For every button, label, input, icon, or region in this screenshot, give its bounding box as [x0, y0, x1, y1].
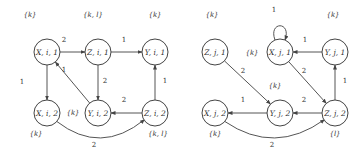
edge-weight-label: 2: [241, 67, 245, 75]
node-Zj2: Z, j, 2: [322, 100, 348, 126]
edge-weight-label: 1: [241, 96, 245, 104]
node-Yi1: Y, i, 1: [142, 39, 168, 65]
node-set-label: {k}: [29, 130, 42, 138]
node-Zi1: Z, i, 1: [85, 39, 111, 65]
node-set-label: {k}: [208, 130, 221, 138]
node-label: Z, i, 2: [143, 109, 166, 118]
node-Zj1: Z, j, 1: [202, 39, 228, 65]
edge-weight-label: 1: [303, 36, 307, 44]
node-label: X, i, 2: [35, 109, 58, 118]
node-Xi2: X, i, 2: [34, 100, 60, 126]
edge-weight-label: 1: [343, 77, 347, 85]
node-set-label: {k}: [245, 49, 258, 57]
edge-weight-label: 2: [62, 36, 66, 44]
node-label: Y, j, 1: [325, 48, 346, 57]
node-label: X, j, 1: [268, 48, 291, 57]
edge-Yi2-Xi1: [55, 62, 89, 103]
node-Xj1: X, j, 1: [267, 39, 293, 65]
edge-Xj1-Zj2: [289, 62, 327, 104]
node-Xi1: X, i, 1: [34, 39, 60, 65]
node-label: X, i, 1: [35, 48, 58, 57]
node-Yj2: Y, j, 2: [267, 100, 293, 126]
node-Zi2: Z, i, 2: [142, 100, 168, 126]
edge-Xj1-Xj1: [274, 26, 287, 40]
node-set-label: {k}: [66, 109, 79, 117]
node-label: X, j, 2: [203, 109, 226, 118]
node-set-label: {k}: [326, 11, 339, 19]
node-set-label: {k, l}: [148, 130, 168, 138]
edge-weight-label: 2: [122, 96, 126, 104]
node-label: Y, j, 2: [270, 109, 291, 118]
edge-weight-label: 1: [20, 78, 24, 86]
node-label: Y, i, 2: [88, 109, 109, 118]
node-Yi2: Y, i, 2: [85, 100, 111, 126]
node-set-label: {k, l}: [83, 11, 103, 19]
node-set-label: {k}: [205, 11, 218, 19]
node-set-label: {k}: [268, 82, 281, 90]
edge-Zj1-Yj2: [224, 61, 270, 104]
graph-diagram: X, i, 1Z, i, 1Y, i, 1X, i, 2Y, i, 2Z, i,…: [0, 0, 362, 154]
edge-weight-label: 1: [122, 36, 126, 44]
node-Yj1: Y, j, 1: [322, 39, 348, 65]
edge-weight-label: 1: [272, 6, 276, 14]
node-set-label: {l}: [329, 130, 340, 138]
node-label: Z, j, 1: [203, 48, 226, 57]
node-label: Z, i, 1: [86, 48, 109, 57]
edge-weight-label: 2: [302, 96, 306, 104]
edge-weight-label: 1: [163, 77, 167, 85]
edge-weight-label: 2: [302, 67, 306, 75]
node-set-label: {k}: [23, 11, 36, 19]
edge-weight-label: 2: [92, 141, 96, 149]
edge-weight-label: 1: [62, 66, 66, 74]
node-label: Z, j, 2: [323, 109, 346, 118]
node-Xj2: X, j, 2: [202, 100, 228, 126]
node-label: Y, i, 1: [145, 48, 166, 57]
edge-weight-label: 2: [270, 141, 274, 149]
edge-weight-label: 2: [103, 77, 107, 85]
node-set-label: {k}: [148, 11, 161, 19]
